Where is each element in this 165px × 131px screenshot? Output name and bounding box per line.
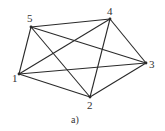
vertex-label-2: 2 bbox=[87, 99, 93, 111]
vertex-4 bbox=[109, 18, 112, 21]
edge-2-3 bbox=[90, 63, 146, 97]
vertex-label-5: 5 bbox=[27, 12, 33, 24]
graph-edges bbox=[19, 19, 146, 97]
edge-2-4 bbox=[90, 19, 110, 97]
vertex-label-3: 3 bbox=[149, 58, 155, 70]
figure-caption: a) bbox=[71, 114, 79, 126]
edge-1-5 bbox=[19, 27, 31, 74]
edge-1-2 bbox=[19, 74, 90, 97]
graph-vertices bbox=[18, 18, 148, 99]
vertex-1 bbox=[18, 73, 21, 76]
edge-3-4 bbox=[110, 19, 146, 63]
vertex-2 bbox=[89, 96, 92, 99]
graph-canvas: 12345 a) bbox=[0, 0, 165, 131]
vertex-label-1: 1 bbox=[12, 72, 18, 84]
vertex-5 bbox=[30, 26, 33, 29]
vertex-3 bbox=[145, 62, 148, 65]
edge-1-3 bbox=[19, 63, 146, 74]
vertex-label-4: 4 bbox=[107, 5, 113, 17]
